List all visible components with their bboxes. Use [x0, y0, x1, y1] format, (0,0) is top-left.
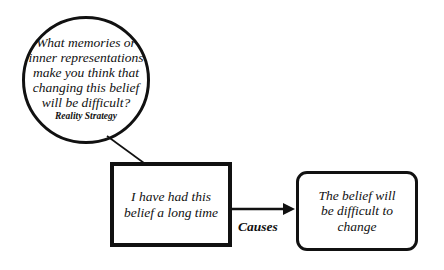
callout-connector-line [107, 136, 144, 163]
cause-line: I have had this [124, 189, 218, 205]
question-line: make you think that [29, 65, 144, 80]
question-bubble: What memories or inner representations m… [22, 16, 150, 144]
effect-line: change [318, 219, 395, 235]
cause-line: belief a long time [124, 205, 218, 221]
question-text: What memories or inner representations m… [29, 35, 144, 110]
reality-strategy-label: Reality Strategy [55, 111, 117, 121]
arrowhead-icon [283, 203, 295, 215]
causes-edge-label: Causes [238, 219, 278, 235]
effect-line: be difficult to [318, 203, 395, 219]
question-line: inner representations [29, 50, 144, 65]
question-line: changing this belief [29, 80, 144, 95]
question-line: will be difficult? [29, 95, 144, 110]
effect-text: The belief will be difficult to change [318, 188, 395, 235]
effect-box: The belief will be difficult to change [296, 171, 418, 251]
cause-text: I have had this belief a long time [124, 189, 218, 220]
question-line: What memories or [29, 35, 144, 50]
cause-box: I have had this belief a long time [110, 162, 232, 247]
effect-line: The belief will [318, 188, 395, 204]
